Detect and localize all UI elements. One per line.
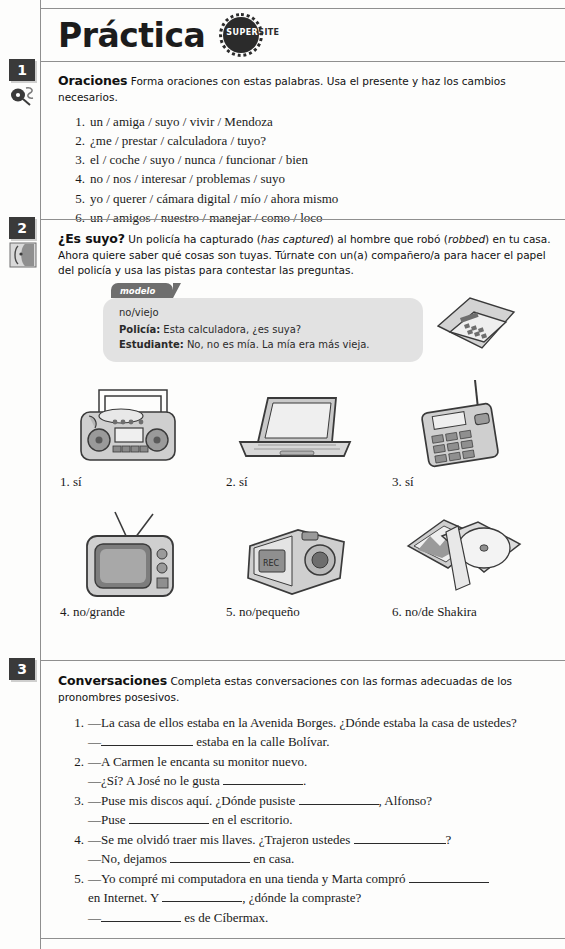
activity-3-body: Conversaciones Completa estas conversaci… bbox=[58, 672, 553, 927]
list-item: ¿me / prestar / calculadora / tuyo? bbox=[88, 131, 553, 150]
television-illustration bbox=[48, 498, 214, 604]
conversation-line: —A Carmen le encanta su monitor nuevo. bbox=[88, 752, 553, 772]
conversation-text: es de Cíbermax. bbox=[181, 910, 268, 925]
mouse-pen-icon bbox=[9, 84, 37, 110]
picture-caption: 4. no/grande bbox=[48, 604, 214, 620]
calculator-illustration bbox=[430, 292, 522, 360]
conversation-line: —La casa de ellos estaba en la Avenida B… bbox=[88, 713, 553, 733]
rule-above-activity-2 bbox=[40, 219, 565, 220]
activity-3-number: 3 bbox=[9, 658, 35, 680]
conversation-text: —¿Sí? A José no le gusta bbox=[88, 773, 223, 788]
conversation-line: —¿Sí? A José no le gusta . bbox=[88, 771, 553, 791]
supersite-site-label: SITE bbox=[258, 29, 279, 37]
answer-blank[interactable] bbox=[170, 862, 250, 863]
activity-1-item-list: un / amiga / suyo / vivir / Mendoza ¿me … bbox=[58, 112, 553, 227]
activity-1-directions: Oraciones Forma oraciones con estas pala… bbox=[58, 72, 553, 105]
list-item: —Se me olvidó traer mis llaves. ¿Trajero… bbox=[88, 830, 553, 869]
list-item: el / coche / suyo / nunca / funcionar / … bbox=[88, 150, 553, 169]
picture-cell-2: 2. sí bbox=[214, 368, 380, 498]
picture-caption: 3. sí bbox=[380, 474, 546, 490]
activity-2-instructions-b: ) al hombre que robó ( bbox=[330, 233, 448, 245]
conversation-text: . bbox=[303, 773, 306, 788]
activity-3-conversation-list: —La casa de ellos estaba en la Avenida B… bbox=[58, 713, 553, 928]
cordless-phone-illustration bbox=[380, 368, 546, 474]
picture-cell-4: 4. no/grande bbox=[48, 498, 214, 628]
picture-cell-5: REC 5. no/pequeño bbox=[214, 498, 380, 628]
pair-work-icon bbox=[9, 242, 37, 268]
answer-blank[interactable] bbox=[354, 843, 446, 844]
conversation-line: —No, dejamos en casa. bbox=[88, 849, 553, 869]
modelo-tab-label: modelo bbox=[111, 283, 173, 298]
answer-blank[interactable] bbox=[409, 882, 489, 883]
picture-caption: 2. sí bbox=[214, 474, 380, 490]
modelo-cue: no/viejo bbox=[119, 305, 407, 321]
cd-cases-illustration bbox=[380, 498, 546, 604]
list-item: —Yo compré mi computadora en una tienda … bbox=[88, 869, 553, 928]
bottom-rule bbox=[40, 938, 565, 939]
answer-blank[interactable] bbox=[101, 921, 181, 922]
activity-2-number: 2 bbox=[9, 217, 35, 239]
page-header: Práctica SUPER SITE bbox=[40, 9, 565, 61]
answer-blank[interactable] bbox=[223, 784, 303, 785]
conversation-line: —Puse en el escritorio. bbox=[88, 810, 553, 830]
answer-blank[interactable] bbox=[162, 901, 242, 902]
conversation-text: —Puse mis discos aquí. ¿Dónde pusiste bbox=[88, 793, 299, 808]
activity-3-title: Conversaciones bbox=[58, 673, 167, 688]
answer-blank[interactable] bbox=[101, 745, 193, 746]
answer-blank[interactable] bbox=[129, 823, 209, 824]
conversation-text: —Yo compré mi computadora en una tienda … bbox=[88, 871, 409, 886]
conversation-line: —Puse mis discos aquí. ¿Dónde pusiste , … bbox=[88, 791, 553, 811]
conversation-text: en Internet. Y bbox=[88, 890, 162, 905]
list-item: un / amiga / suyo / vivir / Mendoza bbox=[88, 112, 553, 131]
conversation-line: en Internet. Y , ¿dónde la compraste? bbox=[88, 888, 553, 908]
conversation-text: , ¿dónde la compraste? bbox=[242, 890, 361, 905]
supersite-logo[interactable]: SUPER SITE bbox=[219, 12, 293, 58]
picture-cell-3: 3. sí bbox=[380, 368, 546, 498]
modelo-speaker-policia: Policía: bbox=[119, 324, 160, 335]
list-item: no / nos / interesar / problemas / suyo bbox=[88, 169, 553, 188]
video-camera-illustration: REC bbox=[214, 498, 380, 604]
answer-blank[interactable] bbox=[299, 804, 379, 805]
picture-caption: 6. no/de Shakira bbox=[380, 604, 546, 620]
conversation-text: —No, dejamos bbox=[88, 851, 170, 866]
list-item: —La casa de ellos estaba en la Avenida B… bbox=[88, 713, 553, 752]
modelo-box-wrapper: modelo no/viejo Policía: Esta calculador… bbox=[103, 283, 423, 362]
list-item: —A Carmen le encanta su monitor nuevo. —… bbox=[88, 752, 553, 791]
conversation-text: , Alfonso? bbox=[379, 793, 432, 808]
conversation-line: — estaba en la calle Bolívar. bbox=[88, 732, 553, 752]
boombox-illustration bbox=[48, 368, 214, 474]
conversation-line: —Se me olvidó traer mis llaves. ¿Trajero… bbox=[88, 830, 553, 850]
conversation-text: estaba en la calle Bolívar. bbox=[193, 734, 329, 749]
conversation-text: ? bbox=[446, 832, 452, 847]
modelo-box: no/viejo Policía: Esta calculadora, ¿es … bbox=[103, 298, 423, 362]
activity-2-gloss-1: has captured bbox=[261, 233, 330, 245]
rule-above-activity-1 bbox=[40, 61, 565, 62]
activity-2-body: ¿Es suyo? Un policía ha capturado (has c… bbox=[58, 230, 553, 278]
conversation-text: en el escritorio. bbox=[209, 812, 293, 827]
picture-cell-1: 1. sí bbox=[48, 368, 214, 498]
list-item: yo / querer / cámara digital / mío / aho… bbox=[88, 189, 553, 208]
conversation-text: en casa. bbox=[250, 851, 294, 866]
activity-1-title: Oraciones bbox=[58, 73, 127, 88]
rule-above-activity-3 bbox=[40, 660, 565, 661]
laptop-illustration bbox=[214, 368, 380, 474]
picture-caption: 1. sí bbox=[48, 474, 214, 490]
modelo-speaker-estudiante: Estudiante: bbox=[119, 339, 184, 350]
modelo-line-1: Esta calculadora, ¿es suya? bbox=[163, 324, 301, 335]
list-item: un / amigos / nuestro / manejar / como /… bbox=[88, 208, 553, 227]
modelo-exchange-2: Estudiante: No, no es mía. La mía era má… bbox=[119, 337, 407, 353]
conversation-text: —La casa de ellos estaba en la Avenida B… bbox=[88, 715, 517, 730]
activity-3-directions: Conversaciones Completa estas conversaci… bbox=[58, 672, 553, 705]
conversation-text: —Se me olvidó traer mis llaves. ¿Trajero… bbox=[88, 832, 354, 847]
page-title: Práctica bbox=[58, 19, 205, 52]
conversation-text: — bbox=[88, 734, 101, 749]
picture-row-2: 4. no/grande REC 5. no/pequeño bbox=[48, 498, 548, 628]
picture-row-1: 1. sí 2. sí bbox=[48, 368, 548, 498]
picture-caption: 5. no/pequeño bbox=[214, 604, 380, 620]
activity-2-directions: ¿Es suyo? Un policía ha capturado (has c… bbox=[58, 230, 553, 278]
conversation-line: — es de Cíbermax. bbox=[88, 908, 553, 928]
activity-2-title: ¿Es suyo? bbox=[58, 231, 125, 246]
conversation-text: — bbox=[88, 910, 101, 925]
svg-text:REC: REC bbox=[263, 559, 280, 568]
picture-cell-6: 6. no/de Shakira bbox=[380, 498, 546, 628]
